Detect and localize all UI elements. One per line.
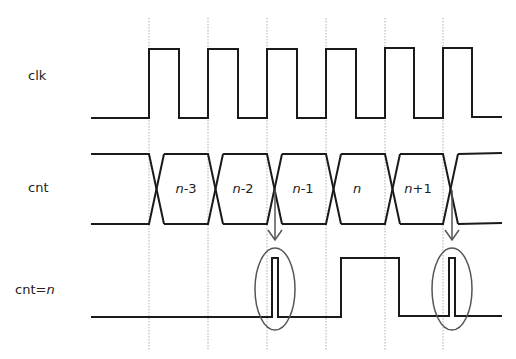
signal-label-clk: clk [28,68,46,83]
glitch-arrows [268,190,459,240]
cnt-state-label: n-2 [232,181,253,196]
signal-label-text: cnt= [15,282,46,297]
signal-label-text: cnt [28,180,48,195]
cnt-state-label: n-1 [292,181,313,196]
cnt-eq-n-waveform [91,258,502,317]
clk-waveform [91,48,502,118]
signal-label-cnt: cnt [28,180,48,195]
state-prefix: n [292,181,300,196]
cnt-state-label: n [353,181,361,196]
timing-diagram [0,0,516,359]
cnt-state-label: n-3 [175,181,196,196]
cnt-state-label: n+1 [404,181,431,196]
state-suffix: -1 [301,181,314,196]
glitch-oval-2 [432,248,472,330]
state-prefix: n [175,181,183,196]
glitch-oval-1 [255,248,295,330]
state-suffix: -2 [241,181,254,196]
state-prefix: n [353,181,361,196]
state-prefix: n [232,181,240,196]
signal-label-text: clk [28,68,46,83]
state-suffix: -3 [184,181,197,196]
signal-label-italic: n [46,282,54,297]
signal-label-cnt-eq-n: cnt=n [15,282,55,297]
state-suffix: +1 [413,181,432,196]
